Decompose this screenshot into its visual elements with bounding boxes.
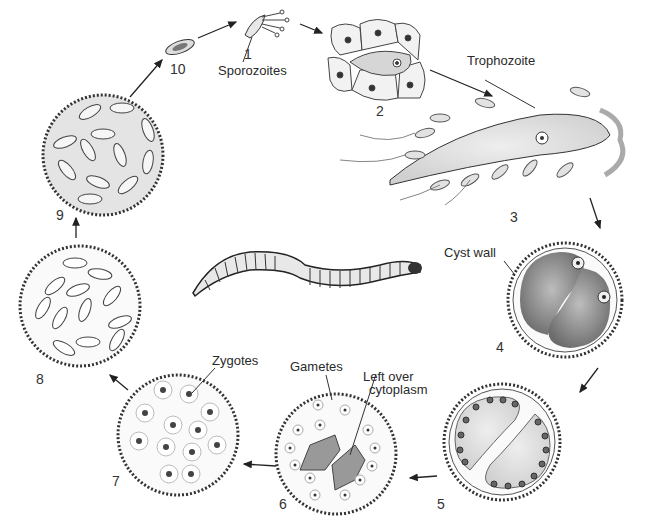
arrow-1-to-2 <box>300 24 322 33</box>
stage-number-5: 5 <box>437 497 445 511</box>
life-cycle-diagram <box>0 0 653 530</box>
stage-10-spore <box>164 36 196 58</box>
label-sporozoites: Sporozoites <box>218 64 287 78</box>
stage-number-4: 4 <box>496 340 504 354</box>
arrow-4-to-5 <box>580 368 598 392</box>
label-trophozoite: Trophozoite <box>467 54 535 68</box>
arrow-3-to-4 <box>590 198 600 228</box>
stage-number-1: 1 <box>244 47 252 61</box>
stage-4-cyst <box>504 243 622 357</box>
arrow-10-to-1 <box>198 22 236 38</box>
stage-number-8: 8 <box>36 372 44 386</box>
stage-8-sporoblasts <box>20 246 140 366</box>
label-left-over-line2: cytoplasm <box>369 383 428 397</box>
arrow-9-to-10 <box>130 60 162 97</box>
stage-number-10: 10 <box>170 62 186 76</box>
label-cyst-wall: Cyst wall <box>444 246 496 260</box>
stage-number-7: 7 <box>112 474 120 488</box>
arrow-5-to-6 <box>410 476 437 478</box>
stage-2-host-cells <box>328 20 425 101</box>
earthworm-host-image <box>193 252 422 296</box>
stage-5-gamete-formation <box>444 384 560 500</box>
stage-7-zygotes <box>118 368 238 495</box>
label-gametes: Gametes <box>290 360 343 374</box>
stage-9-spores <box>43 95 163 215</box>
stage-number-6: 6 <box>279 497 287 511</box>
stage-number-3: 3 <box>510 210 518 224</box>
stage-number-9: 9 <box>56 208 64 222</box>
arrow-2-to-3 <box>430 70 492 96</box>
stage-number-2: 2 <box>376 104 384 118</box>
arrow-6-to-7 <box>244 464 276 466</box>
label-zygotes: Zygotes <box>212 354 258 368</box>
arrow-7-to-8 <box>110 375 128 390</box>
